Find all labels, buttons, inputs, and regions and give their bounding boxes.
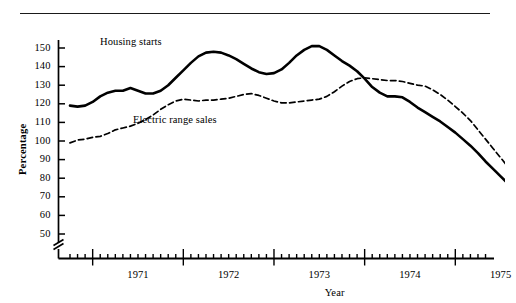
y-axis-tick-label: 120 [27,98,51,109]
x-axis-tick-label: 1974 [387,270,433,281]
y-axis-tick-label: 150 [27,43,51,54]
series-line-solid [70,46,505,187]
y-axis-tick-label: 70 [27,191,51,202]
y-axis-tick-label: 90 [27,154,51,165]
y-axis-tick-label: 80 [27,173,51,184]
x-axis-tick-label: 1972 [206,270,252,281]
x-axis-tick-label: 1973 [296,270,342,281]
y-axis-tick-label: 110 [27,117,51,128]
y-axis-tick-label: 50 [27,229,51,240]
series-line-dashed [70,78,505,173]
x-axis-tick-label: 1971 [115,270,161,281]
y-axis-tick-label: 140 [27,61,51,72]
y-axis-tick-label: 60 [27,210,51,221]
y-axis-tick-label: 100 [27,136,51,147]
y-axis-tick-label: 130 [27,80,51,91]
x-axis-tick-label: 1975 [478,270,516,281]
